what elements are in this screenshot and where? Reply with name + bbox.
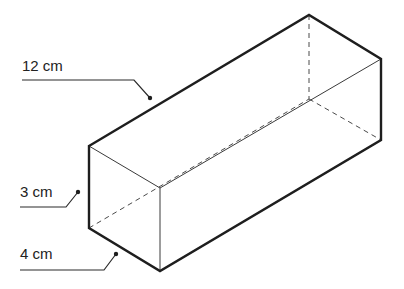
label-height: 3 cm [20, 183, 80, 207]
label-width: 4 cm [20, 245, 118, 270]
hidden-edge-long-diagonal [89, 99, 309, 228]
label-length-text: 12 cm [22, 57, 63, 74]
label-height-text: 3 cm [20, 183, 53, 200]
leader-line-length [22, 80, 150, 98]
hidden-edge-back-right [309, 99, 381, 140]
leader-dot-length [148, 96, 152, 100]
edge-top-front-long [160, 59, 381, 188]
cuboid-diagram: 12 cm 3 cm 4 cm [0, 0, 404, 289]
edge-top-front-left [89, 146, 160, 188]
leader-dot-width [114, 252, 118, 256]
label-length: 12 cm [22, 57, 152, 100]
cuboid-outline [89, 15, 381, 271]
hidden-edges [89, 15, 381, 228]
leader-dot-height [76, 190, 80, 194]
label-width-text: 4 cm [20, 245, 53, 262]
